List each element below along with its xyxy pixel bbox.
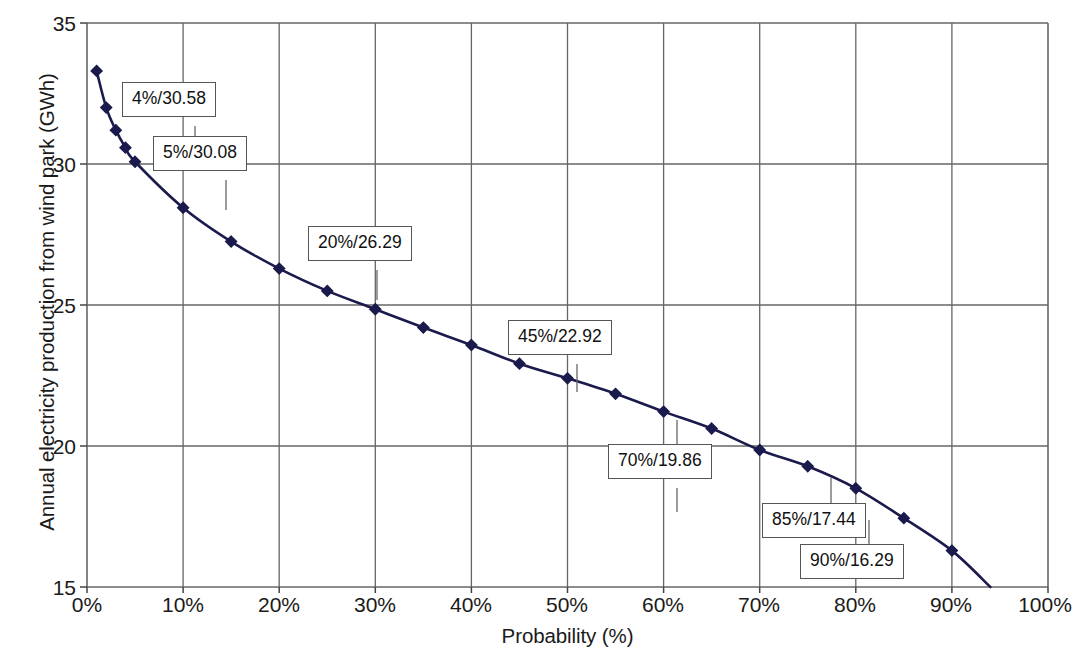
callout-5pct: 5%/30.08 — [153, 136, 247, 171]
callout-85pct: 85%/17.44 — [762, 503, 866, 538]
callout-4pct: 4%/30.58 — [122, 82, 216, 117]
chart-container: Annual electricity production from wind … — [0, 0, 1091, 658]
callout-20pct: 20%/26.29 — [308, 226, 412, 261]
callout-90pct: 90%/16.29 — [800, 544, 904, 579]
callout-45pct: 45%/22.92 — [508, 320, 612, 355]
axis-ticks — [80, 23, 1048, 593]
callout-70pct: 70%/19.86 — [608, 444, 712, 479]
grid-lines — [87, 23, 1048, 587]
